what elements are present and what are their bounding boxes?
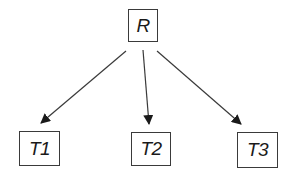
edge-r-to-t3 [157, 51, 241, 124]
node-root-r: R [128, 9, 158, 42]
node-label: T3 [247, 139, 268, 161]
node-label: T1 [29, 138, 50, 160]
edge-r-to-t2 [143, 50, 149, 124]
node-label: R [136, 15, 149, 37]
node-t1: T1 [19, 131, 60, 166]
node-t3: T3 [237, 132, 278, 168]
node-t2: T2 [131, 132, 171, 166]
node-label: T2 [140, 138, 161, 160]
edge-r-to-t1 [41, 51, 126, 123]
